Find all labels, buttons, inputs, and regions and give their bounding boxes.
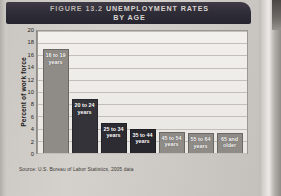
bar-category-label: 65 and older [221, 136, 238, 148]
bar-slot: 55 to 64 years [186, 31, 215, 153]
y-axis: Percent of work force 20181614121086420 [9, 30, 37, 154]
bar-series: 16 to 19 years20 to 24 years25 to 34 yea… [38, 31, 247, 153]
bar-slot: 65 and older [215, 31, 244, 153]
bar-category-label: 45 to 54 years [161, 135, 181, 147]
bar-slot: 20 to 24 years [70, 31, 99, 153]
figure-title-line2: BY AGE [14, 13, 245, 22]
source-note: Source: U.S. Bureau of Labor Statistics,… [19, 167, 134, 172]
figure-number: FIGURE 13.2 [50, 4, 103, 13]
y-tick-label: 20 [28, 27, 34, 33]
figure-title-banner: FIGURE 13.2 UNEMPLOYMENT RATES BY AGE [6, 2, 251, 24]
y-tick-label: 14 [28, 64, 34, 70]
bar-category-label: 25 to 34 years [103, 126, 123, 138]
plot-area: 16 to 19 years20 to 24 years25 to 34 yea… [37, 30, 248, 154]
bar: 35 to 44 years [130, 129, 156, 153]
bar-slot: 45 to 54 years [157, 31, 186, 153]
y-tick-label: 16 [28, 52, 34, 58]
y-tick-label: 10 [28, 89, 34, 95]
y-tick-label: 4 [31, 126, 34, 132]
gridline [38, 153, 247, 154]
figure-page: FIGURE 13.2 UNEMPLOYMENT RATES BY AGE Pe… [0, 0, 281, 196]
page-corner-shadow [272, 0, 281, 30]
y-axis-title: Percent of work force [20, 32, 27, 152]
bar: 16 to 19 years [43, 49, 69, 153]
bar: 65 and older [217, 133, 243, 153]
bar-category-label: 20 to 24 years [74, 102, 94, 114]
bar-category-label: 35 to 44 years [132, 132, 152, 144]
page-left-curl [0, 0, 7, 196]
bar-slot: 25 to 34 years [99, 31, 128, 153]
y-tick-label: 8 [31, 101, 34, 107]
bar: 25 to 34 years [101, 123, 127, 154]
bar-category-label: 16 to 19 years [45, 52, 65, 64]
bar-slot: 35 to 44 years [128, 31, 157, 153]
bar: 20 to 24 years [72, 99, 98, 153]
y-tick-label: 6 [31, 114, 34, 120]
figure-title-line1: UNEMPLOYMENT RATES [106, 4, 209, 13]
y-tick-label: 18 [28, 39, 34, 45]
chart-container: Percent of work force 20181614121086420 … [9, 26, 252, 176]
bar-slot: 16 to 19 years [41, 31, 70, 153]
bar: 55 to 64 years [188, 133, 214, 153]
y-tick-label: 0 [31, 151, 34, 157]
bar: 45 to 54 years [159, 132, 185, 153]
bar-category-label: 55 to 64 years [190, 136, 210, 148]
y-tick-label: 2 [31, 139, 34, 145]
y-tick-label: 12 [28, 77, 34, 83]
